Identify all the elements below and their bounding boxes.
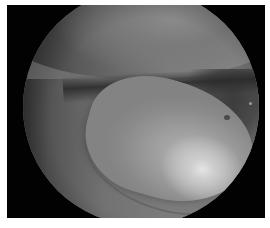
dark-spot [224,115,230,120]
scope-view [23,5,259,218]
image-frame [7,5,265,218]
light-speck [249,102,252,105]
